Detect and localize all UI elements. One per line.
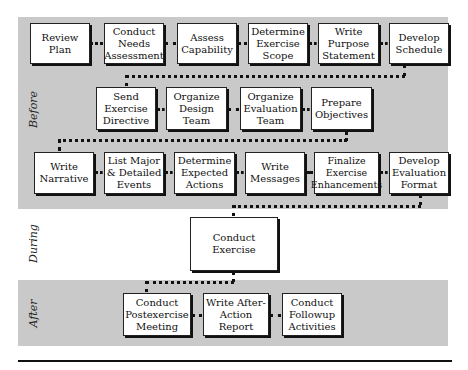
connector: [236, 171, 244, 174]
step-conduct-postexercise-meeting: Conduct Postexercise Meeting: [123, 293, 191, 336]
phase-label-after: After: [27, 284, 40, 344]
connector: [125, 75, 128, 86]
connector: [238, 42, 247, 45]
connector: [165, 42, 176, 45]
step-determine-exercise-scope: Determine Exercise Scope: [248, 23, 308, 64]
connector: [58, 139, 61, 151]
step-write-messages: Write Messages: [245, 152, 305, 194]
step-determine-expected-actions: Determine Expected Actions: [174, 152, 235, 194]
step-conduct-needs-assessment: Conduct Needs Assessment: [104, 23, 164, 64]
step-organize-design-team: Organize Design Team: [166, 87, 227, 130]
connector: [228, 108, 239, 111]
bottom-rule: [18, 360, 452, 362]
step-organize-evaluation-team: Organize Evaluation Team: [240, 87, 301, 130]
connector: [157, 108, 165, 111]
connector: [58, 139, 347, 142]
step-review-plan: Review Plan: [30, 23, 90, 64]
connector: [419, 195, 422, 205]
connector: [126, 75, 405, 78]
connector: [270, 314, 281, 317]
connector: [145, 281, 148, 292]
connector: [192, 314, 202, 317]
step-write-purpose-statement: Write Purpose Statement: [318, 23, 379, 64]
connector: [233, 205, 421, 208]
step-develop-evaluation-format: Develop Evaluation Format: [389, 152, 449, 194]
connector: [302, 108, 310, 111]
step-send-exercise-directive: Send Exercise Directive: [96, 87, 156, 130]
connector: [165, 171, 173, 174]
connector: [146, 281, 234, 284]
step-develop-schedule: Develop Schedule: [389, 23, 449, 64]
phase-label-before: Before: [27, 80, 40, 140]
step-assess-capability: Assess Capability: [177, 23, 237, 64]
connector: [95, 171, 103, 174]
connector: [380, 42, 388, 45]
step-conduct-exercise: Conduct Exercise: [190, 217, 278, 271]
step-conduct-followup-activities: Conduct Followup Activities: [282, 293, 342, 336]
connector: [232, 205, 235, 216]
connector: [90, 42, 103, 45]
step-write-narrative: Write Narrative: [34, 152, 94, 194]
step-finalize-exercise-enhancements: Finalize Exercise Enhancements: [314, 152, 379, 194]
connector: [309, 42, 317, 45]
step-prepare-objectives: Prepare Objectives: [311, 87, 372, 130]
step-list-major-detailed-events: List Major & Detailed Events: [104, 152, 164, 194]
step-write-after-action-report: Write After-Action Report: [203, 293, 269, 336]
phase-label-during: During: [27, 214, 40, 274]
